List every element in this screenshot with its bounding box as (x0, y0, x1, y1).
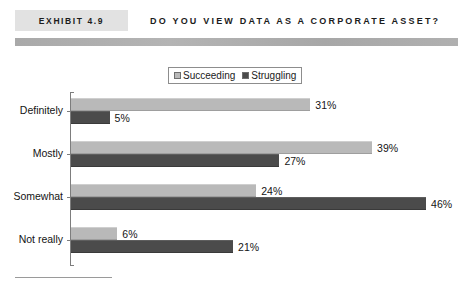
bar-row: 5% (71, 111, 450, 124)
category-label: Not really (0, 233, 63, 245)
bar-group: Somewhat24%46% (71, 184, 450, 210)
category-label: Somewhat (0, 190, 63, 202)
legend-label: Struggling (251, 70, 296, 81)
category-label: Definitely (0, 104, 63, 116)
bar-value-label: 5% (115, 112, 130, 124)
bar-row: 24% (71, 184, 450, 197)
bar-struggling (71, 240, 233, 253)
bar-row: 27% (71, 154, 450, 167)
legend-label: Succeeding (183, 70, 235, 81)
footer-rule (15, 277, 112, 278)
bar-struggling (71, 111, 110, 124)
bar-group: Mostly39%27% (71, 141, 450, 167)
bar-succeeding (71, 227, 117, 240)
bar-value-label: 6% (122, 228, 137, 240)
exhibit-number-label: EXHIBIT 4.9 (39, 16, 104, 26)
bar-value-label: 46% (431, 198, 452, 210)
bar-group: Not really6%21% (71, 227, 450, 253)
bar-value-label: 24% (261, 185, 282, 197)
bar-row: 6% (71, 227, 450, 240)
bar-row: 46% (71, 197, 450, 210)
bar-row: 39% (71, 141, 450, 154)
category-label: Mostly (0, 147, 63, 159)
bar-struggling (71, 197, 426, 210)
header-divider-band (15, 38, 458, 46)
chart-plot-area: Definitely31%5%Mostly39%27%Somewhat24%46… (70, 92, 450, 266)
exhibit-title: DO YOU VIEW DATA AS A CORPORATE ASSET? (150, 10, 440, 31)
exhibit-figure: EXHIBIT 4.9 DO YOU VIEW DATA AS A CORPOR… (0, 0, 476, 286)
chart-legend: SucceedingStruggling (168, 67, 302, 84)
bar-row: 21% (71, 240, 450, 253)
legend-swatch-succeeding (174, 72, 181, 79)
bar-value-label: 27% (284, 155, 305, 167)
bar-row: 31% (71, 98, 450, 111)
bar-value-label: 39% (377, 142, 398, 154)
bar-succeeding (71, 98, 310, 111)
legend-swatch-struggling (242, 72, 249, 79)
bar-struggling (71, 154, 279, 167)
axis-cap-bottom (70, 265, 74, 266)
axis-cap-top (70, 92, 74, 93)
exhibit-number-badge: EXHIBIT 4.9 (15, 10, 128, 31)
bar-succeeding (71, 184, 256, 197)
bar-value-label: 31% (315, 99, 336, 111)
bar-succeeding (71, 141, 372, 154)
legend-item: Struggling (242, 70, 296, 81)
bar-group: Definitely31%5% (71, 98, 450, 124)
legend-item: Succeeding (174, 70, 235, 81)
bar-value-label: 21% (238, 241, 259, 253)
